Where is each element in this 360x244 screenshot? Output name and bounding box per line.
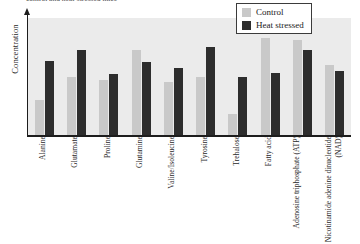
bar-group xyxy=(196,18,215,135)
y-axis-title: Concentration xyxy=(10,4,20,94)
bar-chart-figure: control and heat-stressed mice Concentra… xyxy=(0,0,360,244)
x-tick-label: Fatty acid xyxy=(264,136,276,244)
bar-heat xyxy=(174,68,183,135)
x-tick-label: Trehalose xyxy=(232,136,244,244)
bar-group xyxy=(325,18,344,135)
legend-label-heat-stressed: Heat stressed xyxy=(256,20,304,30)
bar-heat xyxy=(271,73,280,135)
bar-control xyxy=(325,65,334,135)
bar-group xyxy=(132,18,151,135)
legend-swatch-heat-stressed-icon xyxy=(242,21,251,30)
x-tick-label: Proline xyxy=(103,136,115,244)
bar-heat xyxy=(142,62,151,135)
x-tick-label: Nicotinamide adenine dinucleotide (NAD) xyxy=(324,136,346,244)
bar-heat xyxy=(238,77,247,136)
x-tick-label: Valine/Isoleucine xyxy=(167,136,179,244)
bar-heat xyxy=(45,61,54,135)
bar-group xyxy=(35,18,54,135)
x-axis-tick-labels: AlanineGlutamateProlineGlutamineValine/I… xyxy=(28,136,351,244)
bar-control xyxy=(228,114,237,135)
legend-label-control: Control xyxy=(256,7,284,17)
x-tick-label: Adenosine triphosphate (ATP) xyxy=(292,136,314,244)
legend-swatch-control-icon xyxy=(242,8,251,17)
bar-heat xyxy=(206,47,215,135)
bar-group xyxy=(261,18,280,135)
bar-control xyxy=(261,38,270,135)
bar-group xyxy=(228,18,247,135)
bar-control xyxy=(99,80,108,135)
bar-control xyxy=(164,82,173,135)
bar-heat xyxy=(109,74,118,135)
bar-heat xyxy=(303,50,312,135)
x-tick-label: Tyrosine xyxy=(200,136,212,244)
bar-control xyxy=(196,77,205,136)
x-tick-label: Glutamine xyxy=(135,136,147,244)
bar-control xyxy=(67,77,76,136)
legend-item-control: Control xyxy=(242,7,304,17)
bar-control xyxy=(293,40,302,135)
x-tick-label: Alanine xyxy=(38,136,50,244)
bar-heat xyxy=(335,71,344,135)
legend-item-heat-stressed: Heat stressed xyxy=(242,20,304,30)
x-tick-label: Glutamate xyxy=(70,136,82,244)
bars-layer xyxy=(28,18,351,135)
bar-group xyxy=(67,18,86,135)
bar-group xyxy=(164,18,183,135)
chart-legend: Control Heat stressed xyxy=(236,3,312,34)
bar-control xyxy=(35,100,44,135)
bar-heat xyxy=(77,50,86,135)
bar-control xyxy=(132,50,141,135)
bar-group xyxy=(99,18,118,135)
bar-group xyxy=(293,18,312,135)
